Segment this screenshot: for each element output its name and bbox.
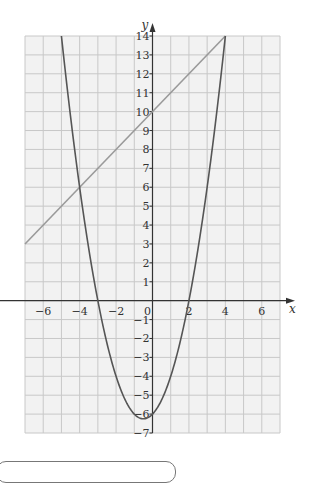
- svg-text:9: 9: [143, 125, 150, 138]
- svg-text:−5: −5: [133, 389, 149, 402]
- svg-text:7: 7: [143, 162, 150, 175]
- svg-text:−6: −6: [35, 305, 51, 318]
- svg-text:3: 3: [143, 238, 150, 251]
- svg-text:6: 6: [143, 181, 150, 194]
- svg-text:−7: −7: [133, 427, 149, 440]
- x-axis-label: x: [289, 302, 296, 316]
- svg-text:−2: −2: [108, 305, 124, 318]
- svg-text:−1: −1: [133, 314, 149, 327]
- svg-text:5: 5: [143, 200, 150, 213]
- svg-text:11: 11: [136, 87, 150, 100]
- svg-text:8: 8: [143, 143, 150, 156]
- svg-text:6: 6: [258, 305, 265, 318]
- answer-box[interactable]: [0, 461, 176, 483]
- svg-text:−2: −2: [133, 332, 149, 345]
- svg-text:−4: −4: [72, 305, 88, 318]
- svg-text:4: 4: [143, 219, 150, 232]
- svg-text:2: 2: [143, 257, 150, 270]
- y-axis-label: y: [141, 18, 149, 32]
- svg-text:4: 4: [222, 305, 229, 318]
- svg-text:12: 12: [136, 68, 150, 81]
- svg-text:1: 1: [143, 276, 150, 289]
- svg-text:13: 13: [136, 49, 150, 62]
- svg-text:−4: −4: [133, 370, 149, 383]
- svg-text:−3: −3: [133, 351, 149, 364]
